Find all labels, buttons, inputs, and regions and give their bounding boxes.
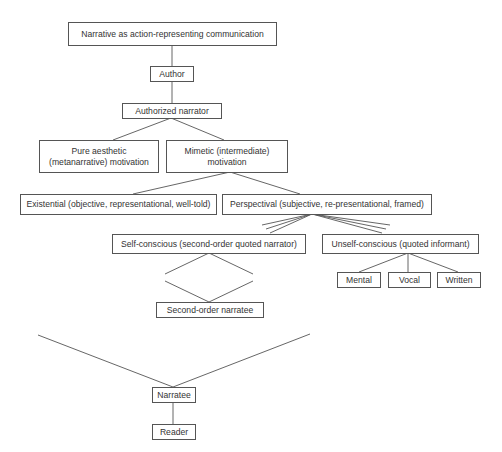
node-mental: Mental: [337, 272, 381, 288]
node-self-conscious: Self-conscious (second-order quoted narr…: [112, 234, 306, 254]
node-second-order-narratee: Second-order narratee: [156, 302, 264, 318]
node-written: Written: [437, 272, 481, 288]
connector-lines: [0, 0, 502, 452]
node-author: Author: [150, 66, 194, 82]
node-root: Narrative as action-representing communi…: [68, 22, 277, 46]
node-narratee: Narratee: [152, 387, 196, 403]
node-vocal: Vocal: [388, 272, 431, 288]
node-reader: Reader: [152, 424, 196, 440]
node-existential: Existential (objective, representational…: [20, 194, 217, 215]
node-pure-aesthetic: Pure aesthetic (metanarrative) motivatio…: [39, 140, 159, 173]
node-unself-conscious: Unself-conscious (quoted informant): [322, 234, 479, 254]
figure-caption-clipped: [18, 447, 288, 452]
narrative-communication-diagram: Narrative as action-representing communi…: [0, 0, 502, 452]
node-perspectival: Perspectival (subjective, re-presentatio…: [222, 194, 432, 215]
node-mimetic: Mimetic (intermediate) motivation: [166, 140, 288, 173]
node-authorized-narrator: Authorized narrator: [122, 103, 222, 119]
